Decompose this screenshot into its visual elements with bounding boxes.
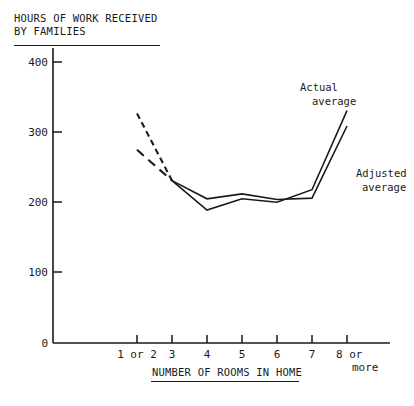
x-axis-ticks [137,335,347,343]
series-line-actual-average-dashed [137,113,172,180]
y-axis-ticks [53,62,62,272]
series-group [137,111,347,210]
chart-container: HOURS OF WORK RECEIVED BY FAMILIES 400 3… [0,0,414,406]
series-line-adjusted-average-dashed [137,150,172,181]
series-line-adjusted-average [172,126,347,200]
plot-area [0,0,414,406]
